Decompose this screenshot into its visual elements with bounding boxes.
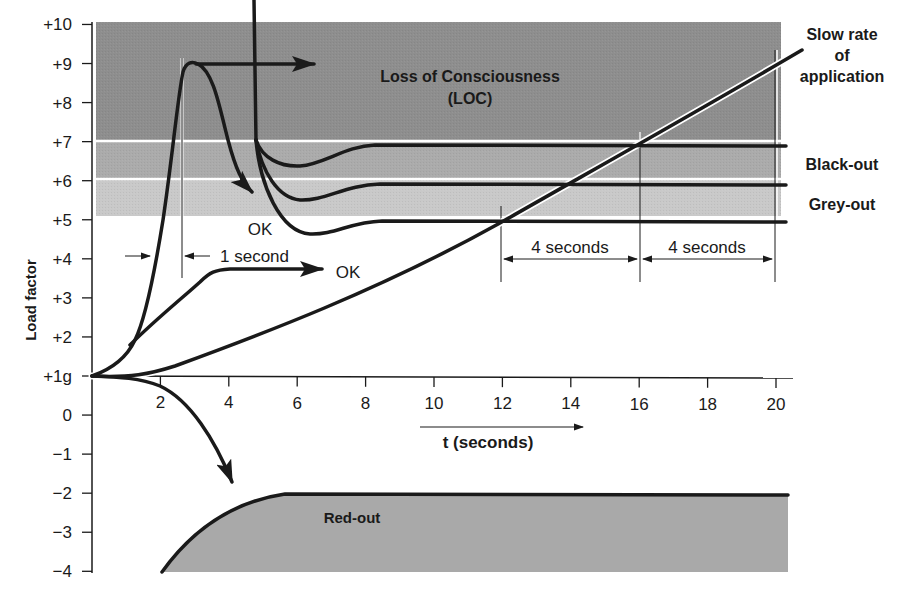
slow-rate-label-2: of — [834, 47, 850, 64]
four-seconds-label-b: 4 seconds — [668, 238, 746, 257]
x-tick-label: 4 — [224, 393, 233, 412]
y-tick-label: +7 — [53, 133, 72, 152]
g-tolerance-chart: +10+9+8+7+6+5+4+3+2+1g0−1−2−3−4 24681012… — [0, 0, 909, 604]
four-seconds-label-a: 4 seconds — [531, 238, 609, 257]
slow-rate-label-1: Slow rate — [806, 26, 877, 43]
x-axis-label: t (seconds) — [443, 433, 534, 452]
y-tick-label: +8 — [53, 94, 72, 113]
x-tick-label: 18 — [698, 395, 717, 414]
y-tick-label: +6 — [53, 172, 72, 191]
moderate-onset-curve — [130, 269, 322, 345]
x-tick-label: 10 — [425, 394, 444, 413]
x-tick-label: 14 — [561, 394, 580, 413]
slow-rate-label-3: application — [800, 68, 884, 85]
threshold-drop-line — [254, 0, 256, 140]
y-axis-label: Load factor — [22, 259, 39, 341]
redout-region — [162, 494, 788, 572]
y-tick-label: +2 — [53, 328, 72, 347]
loc-abbr-label: (LOC) — [448, 90, 492, 107]
y-tick-label: +1g — [43, 367, 72, 386]
x-tick-label: 16 — [630, 395, 649, 414]
x-tick-label: 6 — [292, 394, 301, 413]
y-tick-label: −2 — [53, 484, 72, 503]
x-axis — [92, 376, 793, 378]
y-tick-label: +5 — [53, 211, 72, 230]
y-ticks: +10+9+8+7+6+5+4+3+2+1g0−1−2−3−4 — [43, 15, 92, 581]
one-second-label: 1 second — [220, 247, 289, 266]
y-tick-label: +9 — [53, 55, 72, 74]
y-tick-label: +10 — [43, 15, 72, 34]
ok-label-lower: OK — [336, 263, 361, 282]
y-tick-label: −4 — [53, 562, 72, 581]
y-tick-label: 0 — [63, 406, 72, 425]
greyout-label: Grey-out — [809, 196, 876, 213]
redout-label: Red-out — [324, 509, 381, 526]
loc-label: Loss of Consciousness — [380, 68, 560, 85]
y-tick-label: −1 — [53, 445, 72, 464]
x-tick-label: 2 — [156, 393, 165, 412]
x-tick-label: 20 — [767, 395, 786, 414]
x-ticks: 2468101214161820 — [156, 376, 786, 414]
ok-label-upper: OK — [248, 220, 273, 239]
y-tick-label: +4 — [53, 250, 72, 269]
x-tick-label: 8 — [361, 394, 370, 413]
regions — [96, 22, 788, 572]
y-tick-label: −3 — [53, 523, 72, 542]
negative-g-curve — [92, 376, 232, 482]
x-tick-label: 12 — [493, 394, 512, 413]
blackout-label: Black-out — [806, 156, 880, 173]
y-tick-label: +3 — [53, 289, 72, 308]
